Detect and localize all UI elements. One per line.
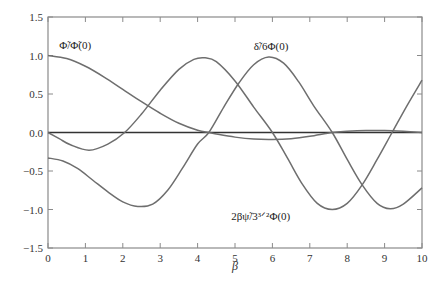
line-chart: 012345678910−1.5−1.0−0.50.00.51.01.5 Φ̃/… <box>0 0 447 288</box>
x-tick-label: 4 <box>195 252 201 264</box>
x-axis-label: β <box>231 259 238 273</box>
y-tick-label: −1.0 <box>23 204 43 216</box>
x-tick-label: 8 <box>344 252 350 264</box>
y-tick-label: 1.5 <box>29 11 43 23</box>
y-tick-label: −0.5 <box>23 165 43 177</box>
curve-label: Φ̃/Φ̃(0) <box>59 39 91 52</box>
x-tick-label: 0 <box>45 252 51 264</box>
curve-delta <box>48 58 422 210</box>
y-tick-label: 1.0 <box>29 50 43 62</box>
x-tick-label: 9 <box>382 252 388 264</box>
x-tick-label: 10 <box>417 252 429 264</box>
curve-phi-ratio <box>48 56 422 140</box>
y-tick-label: 0.0 <box>29 127 43 139</box>
x-tick-label: 6 <box>270 252 276 264</box>
curve-labels: Φ̃/Φ̃(0)δ̃/6Φ(0)2βψ̃/3³ᐟ²Φ(0) <box>59 39 290 222</box>
x-tick-label: 7 <box>307 252 313 264</box>
y-tick-label: −1.5 <box>23 242 43 254</box>
curve-label: δ̃/6Φ(0) <box>254 40 289 53</box>
x-tick-label: 3 <box>157 252 163 264</box>
curve-label: 2βψ̃/3³ᐟ²Φ(0) <box>231 210 290 223</box>
x-tick-label: 1 <box>83 252 89 264</box>
y-tick-label: 0.5 <box>29 88 43 100</box>
x-tick-label: 2 <box>120 252 126 264</box>
